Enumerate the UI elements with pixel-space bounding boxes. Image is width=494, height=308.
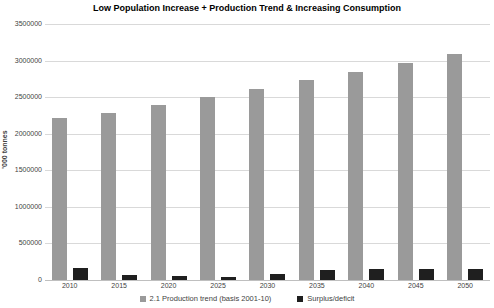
x-tick-label-2045: 2045	[391, 282, 440, 289]
legend-label: Surplus/deficit	[307, 294, 354, 303]
bar-production-2030	[249, 89, 264, 280]
bar-production-2040	[348, 72, 363, 280]
y-tick-label: 0	[0, 276, 42, 284]
x-tick-label-2030: 2030	[243, 282, 292, 289]
chart-canvas: Low Population Increase + Production Tre…	[0, 0, 494, 308]
y-tick-label: 3500000	[0, 20, 42, 28]
bar-surplus-2030	[270, 274, 285, 280]
bar-cluster-2025	[193, 24, 242, 280]
legend: 2.1 Production trend (basis 2001-10)Surp…	[0, 294, 494, 303]
bar-series-area	[45, 24, 490, 280]
bar-production-2015	[101, 113, 116, 280]
y-tick-label: 3000000	[0, 57, 42, 65]
bar-production-2010	[52, 118, 67, 280]
bar-production-2035	[299, 80, 314, 280]
chart-title: Low Population Increase + Production Tre…	[0, 3, 494, 13]
x-tick-label-2050: 2050	[441, 282, 490, 289]
bar-surplus-2040	[369, 269, 384, 280]
bar-production-2025	[200, 97, 215, 280]
legend-label: 2.1 Production trend (basis 2001-10)	[150, 294, 272, 303]
bar-cluster-2040	[342, 24, 391, 280]
x-axis-line	[45, 280, 490, 281]
x-axis-tick-labels: 201020152020202520302035204020452050	[45, 282, 490, 289]
x-tick-label-2020: 2020	[144, 282, 193, 289]
bar-cluster-2015	[94, 24, 143, 280]
x-tick-label-2015: 2015	[94, 282, 143, 289]
x-tick-label-2040: 2040	[342, 282, 391, 289]
bar-surplus-2010	[73, 268, 88, 280]
y-tick-label: 500000	[0, 239, 42, 247]
bar-production-2020	[151, 105, 166, 280]
bar-surplus-2025	[221, 277, 236, 280]
y-tick-label: 1000000	[0, 203, 42, 211]
bar-surplus-2035	[320, 270, 335, 280]
y-tick-label: 1500000	[0, 166, 42, 174]
legend-item-surplus-deficit: Surplus/deficit	[297, 294, 354, 303]
x-tick-label-2010: 2010	[45, 282, 94, 289]
bar-surplus-2050	[468, 269, 483, 280]
bar-production-2045	[398, 63, 413, 280]
bar-cluster-2050	[441, 24, 490, 280]
legend-marker-icon	[140, 296, 146, 302]
y-tick-label: 2500000	[0, 93, 42, 101]
plot-area	[45, 24, 490, 280]
bar-cluster-2010	[45, 24, 94, 280]
bar-production-2050	[447, 54, 462, 280]
bar-surplus-2045	[419, 269, 434, 280]
legend-marker-icon	[297, 296, 303, 302]
bar-cluster-2035	[292, 24, 341, 280]
bar-surplus-2020	[172, 276, 187, 280]
y-tick-label: 2000000	[0, 130, 42, 138]
bar-cluster-2030	[243, 24, 292, 280]
x-tick-label-2025: 2025	[193, 282, 242, 289]
bar-cluster-2020	[144, 24, 193, 280]
bar-surplus-2015	[122, 275, 137, 280]
x-tick-label-2035: 2035	[292, 282, 341, 289]
bar-cluster-2045	[391, 24, 440, 280]
legend-item-production-trend: 2.1 Production trend (basis 2001-10)	[140, 294, 272, 303]
